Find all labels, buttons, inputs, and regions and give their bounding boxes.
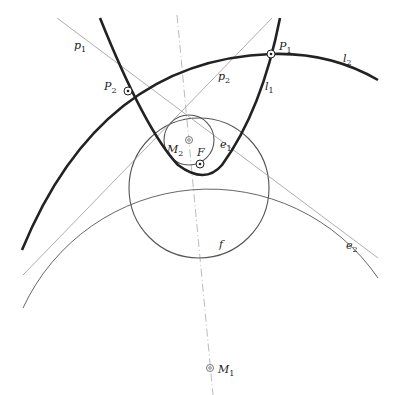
label-e1: e1 (220, 138, 232, 153)
point-P2 (124, 87, 132, 95)
label-M2: M2 (166, 143, 183, 158)
line-p1 (57, 18, 378, 258)
circle-e2 (23, 189, 378, 308)
label-P2: P2 (103, 80, 117, 95)
label-p1: p1 (74, 39, 86, 54)
circle-f (129, 118, 269, 258)
point-F (196, 160, 204, 168)
label-l2: l2 (343, 52, 352, 67)
label-l1: l1 (265, 80, 274, 95)
label-F: F (196, 146, 205, 159)
label-P1: P1 (278, 40, 292, 55)
point-M1 (207, 365, 214, 372)
diagram-svg: p1 p2 P1 P2 l1 l2 e1 e2 M2 M1 F f (0, 0, 395, 395)
point-M2 (186, 137, 193, 144)
geometry-diagram: p1 p2 P1 P2 l1 l2 e1 e2 M2 M1 F f (0, 0, 395, 395)
label-p2: p2 (218, 70, 230, 85)
label-f: f (218, 238, 225, 251)
label-M1: M1 (217, 363, 234, 378)
point-P1 (267, 50, 275, 58)
